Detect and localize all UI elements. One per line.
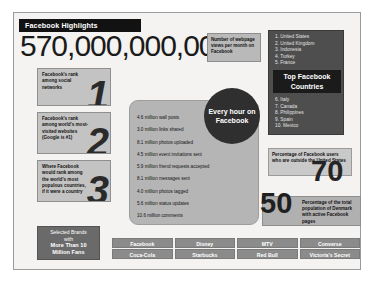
rank-caption: Facebook's rank among world's most-visit… (42, 116, 88, 141)
list-item: 5.9 million friend requests accepted (137, 161, 258, 173)
top-countries-list-first: 1. United States 2. United Kingdom 3. In… (269, 31, 343, 67)
list-item: 2. United Kingdom (275, 41, 343, 48)
rank-caption: Where Facebook would rank among the worl… (42, 164, 88, 195)
brands-label: Selected Brands with More Than 10 Millio… (37, 226, 100, 260)
brand-cell: Starbucks (175, 249, 236, 259)
list-item: 10. Mexico (275, 123, 304, 130)
rank-digit: 1 (87, 75, 109, 106)
list-item: 4. Turkey (275, 54, 343, 61)
brand-cell: Converse (300, 238, 361, 248)
brand-grid: Facebook Disney MTV Converse Coca-Cola S… (112, 238, 360, 259)
top-countries-panel: 1. United States 2. United Kingdom 3. In… (268, 30, 344, 135)
infographic-canvas: Facebook Highlights 570,000,000,000 Numb… (0, 0, 374, 284)
webpage-views-callout: Number of webpage views per month on Fac… (207, 33, 261, 62)
list-item: 5.6 million status updates (137, 198, 258, 210)
list-item: 4.0 million photos tagged (137, 186, 258, 198)
percent-denmark-caption: Percentage of the total population of De… (302, 200, 360, 225)
brands-label-line3: More Than 10 (38, 242, 99, 249)
list-item: 8. Philippines (275, 110, 304, 117)
top-countries-title: Top Facebook Countries (273, 70, 341, 93)
every-hour-circle: Every hour on Facebook (204, 88, 260, 144)
rank-card-populous-countries: Where Facebook would rank among the worl… (37, 160, 111, 202)
rank-card-social-networks: Facebook's rank among social networks 1 (37, 68, 111, 106)
list-item: 9. Spain (275, 117, 304, 124)
brand-cell: MTV (237, 238, 298, 248)
brand-cell: Coca-Cola (112, 249, 173, 259)
list-item: 3. Indonesia (275, 47, 343, 54)
list-item: 5. France (275, 60, 343, 67)
rank-caption: Facebook's rank among social networks (42, 72, 88, 91)
top-countries-list-second: 6. Italy 7. Canada 8. Philippines 9. Spa… (269, 94, 304, 130)
list-item: 8.1 million messages sent (137, 173, 258, 185)
list-item: 10.6 million comments (137, 210, 258, 222)
list-item: 6. Italy (275, 97, 304, 104)
brands-label-line4: Million Fans (38, 249, 99, 256)
brand-cell: Facebook (112, 238, 173, 248)
brand-cell: Disney (175, 238, 236, 248)
brand-cell: Victoria's Secret (300, 249, 361, 259)
percent-outside-us-value: 70 (311, 157, 343, 186)
rank-digit: 3 (87, 170, 109, 202)
rank-digit: 2 (87, 122, 109, 154)
list-item: 7. Canada (275, 104, 304, 111)
brands-label-line2: with (38, 236, 99, 243)
brand-cell: Red Bull (237, 249, 298, 259)
brands-label-line1: Selected Brands (38, 229, 99, 236)
percent-denmark-value: 50 (260, 189, 292, 218)
list-item: 1. United States (275, 34, 343, 41)
list-item: 4.5 million event invitations sent (137, 149, 258, 161)
hero-big-number: 570,000,000,000 (20, 31, 230, 61)
rank-card-most-visited-websites: Facebook's rank among world's most-visit… (37, 112, 111, 154)
